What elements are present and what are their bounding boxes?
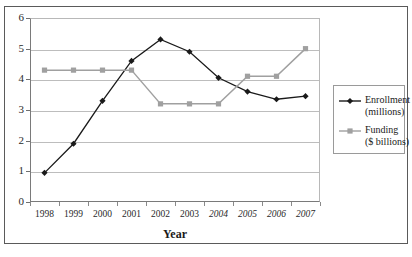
data-point-marker xyxy=(129,68,134,73)
x-axis-tick-label: 2003 xyxy=(175,210,204,220)
x-axis-tick-label: 1999 xyxy=(59,210,88,220)
x-axis-tick-mark xyxy=(262,202,263,206)
x-axis-tick-mark xyxy=(175,202,176,206)
x-axis-tick-mark xyxy=(291,202,292,206)
x-axis-tick-label: 2005 xyxy=(233,210,262,220)
data-point-marker xyxy=(302,93,308,99)
x-axis-title: Year xyxy=(30,228,320,240)
x-axis-tick-label: 2002 xyxy=(146,210,175,220)
chart-figure: 6543210 19981999200020012002200320042005… xyxy=(0,0,412,257)
legend-marker-funding xyxy=(338,125,362,137)
data-point-marker xyxy=(42,68,47,73)
series-enrollment xyxy=(41,36,308,176)
data-point-marker xyxy=(187,101,192,106)
x-axis-tick-mark xyxy=(117,202,118,206)
data-point-marker xyxy=(273,96,279,102)
legend-sublabel: (millions) xyxy=(365,106,404,119)
data-point-marker xyxy=(245,74,250,79)
data-point-marker xyxy=(303,46,308,51)
data-point-marker xyxy=(274,74,279,79)
x-axis-tick-mark xyxy=(146,202,147,206)
data-point-marker xyxy=(100,68,105,73)
x-axis-tick-mark xyxy=(59,202,60,206)
data-point-marker xyxy=(216,101,221,106)
legend-label: Funding xyxy=(365,124,398,137)
series-line xyxy=(45,39,306,172)
x-axis-tick-mark xyxy=(88,202,89,206)
data-point-marker xyxy=(71,68,76,73)
legend-marker-enrollment xyxy=(338,95,362,107)
x-axis-tick-label: 2001 xyxy=(117,210,146,220)
x-axis-tick-label: 2000 xyxy=(88,210,117,220)
series-line xyxy=(45,49,306,104)
legend-sublabel: ($ billions) xyxy=(365,136,409,149)
x-axis-tick-mark xyxy=(30,202,31,206)
x-axis-tick-label: 2006 xyxy=(262,210,291,220)
x-axis-tick-mark xyxy=(320,202,321,206)
x-axis-tick-mark xyxy=(204,202,205,206)
data-point-marker xyxy=(158,101,163,106)
data-point-marker xyxy=(244,89,250,95)
x-axis-tick-mark xyxy=(233,202,234,206)
x-axis-tick-label: 2007 xyxy=(291,210,320,220)
x-axis-tick-label: 2004 xyxy=(204,210,233,220)
x-axis-tick-label: 1998 xyxy=(30,210,59,220)
legend-label: Enrollment xyxy=(365,94,410,107)
